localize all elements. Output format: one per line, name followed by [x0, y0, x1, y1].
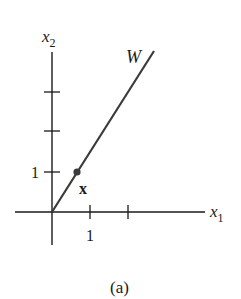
point-x	[73, 168, 80, 175]
subspace-line-w	[52, 51, 154, 212]
line-label-w: W	[126, 47, 143, 67]
y-axis-label: x2	[41, 27, 56, 50]
y-tick-label-1: 1	[31, 164, 39, 181]
x-axis-label: x1	[209, 202, 224, 225]
figure-caption: (a)	[110, 278, 129, 297]
diagram-canvas: x2 x1 W x 1 1 (a)	[0, 0, 241, 299]
point-label-x: x	[79, 180, 87, 197]
x-tick-label-1: 1	[86, 227, 94, 244]
